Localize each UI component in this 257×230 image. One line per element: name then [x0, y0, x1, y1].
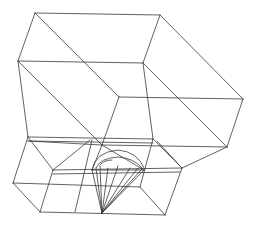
wireframe-canvas [0, 0, 257, 230]
upper-box [18, 13, 243, 147]
gem-cone [92, 150, 144, 213]
lower-block [13, 137, 227, 215]
